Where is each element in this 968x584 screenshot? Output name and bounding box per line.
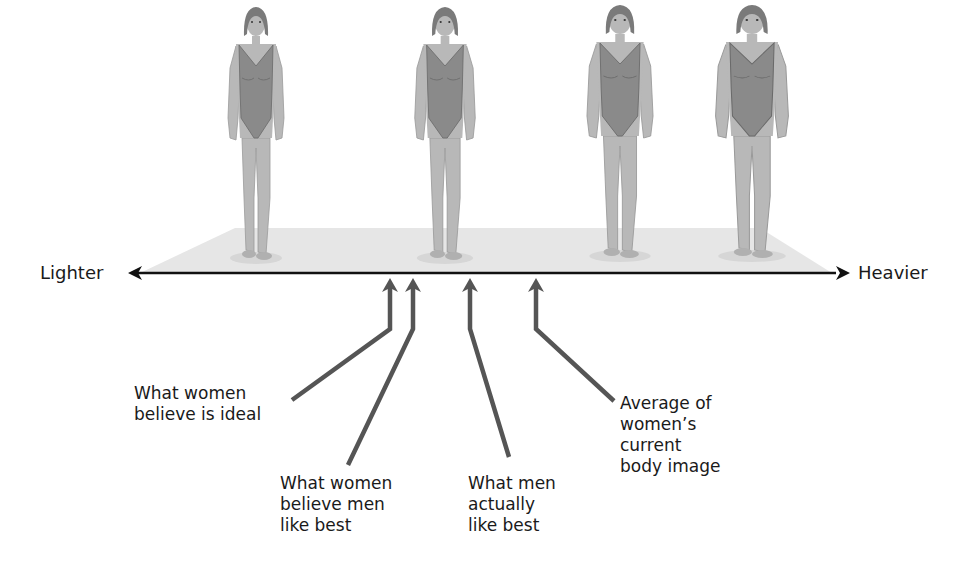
- arrowhead-right-icon: [836, 266, 850, 280]
- callout-arrow-believe-men: [348, 286, 413, 465]
- callout-label-ideal: What women believe is ideal: [134, 383, 261, 425]
- figure-slender: [415, 7, 475, 264]
- axis-label-heavier: Heavier: [858, 263, 928, 283]
- woman-figure-icon: [716, 5, 789, 262]
- woman-figure-icon: [587, 5, 653, 262]
- figure-heaviest: [716, 5, 789, 262]
- figure-thinnest: [228, 7, 284, 264]
- callout-arrow-average: [536, 286, 614, 401]
- callout-label-average: Average of women’s current body image: [620, 393, 720, 477]
- callout-arrow-ideal: [292, 286, 390, 400]
- callout-label-men-actually: What men actually like best: [468, 473, 556, 536]
- woman-figure-icon: [415, 7, 475, 264]
- floor-platform: [140, 228, 832, 273]
- woman-figure-icon: [228, 7, 284, 264]
- callout-arrow-men-actually: [470, 286, 509, 457]
- callout-label-believe-men: What women believe men like best: [280, 473, 392, 536]
- axis-label-lighter: Lighter: [40, 263, 103, 283]
- figure-moderate: [587, 5, 653, 262]
